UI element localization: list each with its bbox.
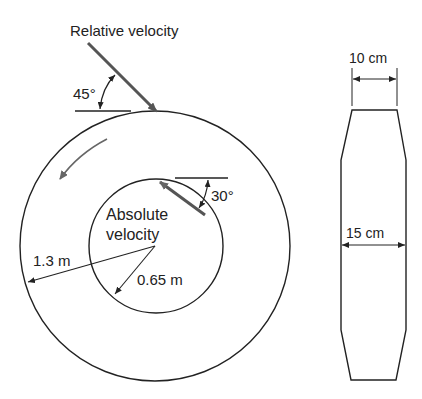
absolute-velocity-label-line2: velocity <box>106 226 159 243</box>
relative-velocity-label: Relative velocity <box>70 22 179 39</box>
rotation-arrow-icon <box>60 139 107 179</box>
relative-angle-label: 45° <box>73 85 96 102</box>
absolute-angle-arc <box>199 180 208 208</box>
absolute-angle-label: 30° <box>211 187 234 204</box>
top-width-label: 10 cm <box>349 50 387 66</box>
absolute-velocity-label-line1: Absolute <box>106 206 168 223</box>
relative-angle-arc <box>100 75 115 109</box>
outer-radius-label: 1.3 m <box>33 252 71 269</box>
turbine-diagram: Relative velocity 45° 30° Absolute veloc… <box>0 0 422 399</box>
middle-width-label: 15 cm <box>346 225 384 241</box>
inner-radius-label: 0.65 m <box>137 271 183 288</box>
inner-wheel-circle <box>89 179 223 313</box>
relative-velocity-vector <box>88 43 156 111</box>
